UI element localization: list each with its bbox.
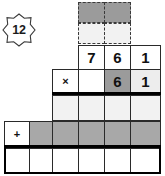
partial-product-2-cell-2[interactable]	[52, 121, 79, 147]
partial-product-2-cell-4[interactable]	[104, 121, 131, 147]
problem-number-badge: 12	[2, 13, 36, 47]
answer-row-right-border	[159, 146, 161, 174]
answer-row-bottom-border	[4, 172, 161, 174]
answer-row-left-border	[4, 146, 6, 174]
plus-operator-cell: +	[4, 121, 30, 147]
multiplier-blank-cell[interactable]	[78, 69, 105, 94]
multiplicand-hundreds-cell[interactable]: 7	[78, 45, 105, 70]
partial-product-1-cell-1[interactable]	[52, 95, 79, 121]
carry-box-bottom-right[interactable]	[104, 23, 131, 44]
partial-product-1-cell-2[interactable]	[78, 95, 105, 121]
multiplicand-tens-cell[interactable]: 6	[104, 45, 131, 70]
multiplier-tens-cell[interactable]: 6	[104, 69, 131, 94]
answer-cell-3[interactable]	[52, 148, 79, 174]
problem-number-label: 12	[2, 13, 36, 47]
carry-box-top-left[interactable]	[78, 2, 105, 23]
partial-product-1-cell-3[interactable]	[104, 95, 131, 121]
multiply-operator-cell: ×	[52, 69, 79, 94]
partial-product-2-cell-5[interactable]	[130, 121, 161, 147]
carry-box-bottom-left[interactable]	[78, 23, 105, 44]
carry-box-top-right[interactable]	[104, 2, 131, 23]
partial-product-1-cell-4[interactable]	[130, 95, 161, 121]
answer-cell-6[interactable]	[130, 148, 161, 174]
partial-product-2-cell-1[interactable]	[29, 121, 53, 147]
long-multiplication-worksheet: 12 7 6 1 × 6 1 +	[0, 0, 165, 176]
answer-cell-2[interactable]	[29, 148, 53, 174]
multiplier-ones-cell[interactable]: 1	[130, 69, 161, 94]
answer-cell-1[interactable]	[4, 148, 30, 174]
multiplicand-ones-cell[interactable]: 1	[130, 45, 161, 70]
answer-cell-5[interactable]	[104, 148, 131, 174]
answer-cell-4[interactable]	[78, 148, 105, 174]
partial-product-2-cell-3[interactable]	[78, 121, 105, 147]
